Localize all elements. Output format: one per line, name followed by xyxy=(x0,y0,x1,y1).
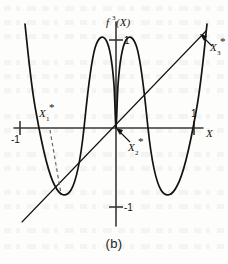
fixed-point-3-label-asterisk: * xyxy=(220,35,226,47)
y-tick-label-minus-one: -1 xyxy=(124,202,133,213)
x-tick-label-minus-one: -1 xyxy=(11,134,20,145)
figure-page: f 3 (X) X -1 1 1 -1 X 1 * X 2 * xyxy=(0,0,228,264)
fixed-point-2-label: X 2 * xyxy=(127,135,144,157)
y-axis-label: f 3 (X) xyxy=(106,14,130,29)
axes-group xyxy=(14,22,203,226)
y-axis-label-base: f xyxy=(106,16,111,28)
y-axis-label-argument: (X) xyxy=(116,16,130,29)
y-tick-label-one: 1 xyxy=(124,35,130,46)
fixed-point-3-label: X 3 * xyxy=(209,35,226,57)
fixed-point-1-label: X 1 * xyxy=(38,101,55,123)
iterate-map-plot: f 3 (X) X -1 1 1 -1 X 1 * X 2 * xyxy=(0,0,228,264)
fixed-point-2-label-asterisk: * xyxy=(138,135,144,147)
fixed-point-1-label-subscript: 1 xyxy=(46,115,50,123)
x-axis-label: X xyxy=(205,127,214,139)
fixed-point-2-label-subscript: 2 xyxy=(135,149,139,157)
identity-diagonal-line xyxy=(22,31,206,222)
fixed-point-1-label-asterisk: * xyxy=(49,101,55,113)
annotation-arrows-group xyxy=(116,34,212,142)
fixed-point-3-label-subscript: 3 xyxy=(217,49,221,57)
x-tick-label-one: 1 xyxy=(191,108,197,119)
tick-marks-group xyxy=(20,40,194,207)
dashed-drop-line xyxy=(50,130,61,194)
figure-caption: (b) xyxy=(0,236,228,251)
